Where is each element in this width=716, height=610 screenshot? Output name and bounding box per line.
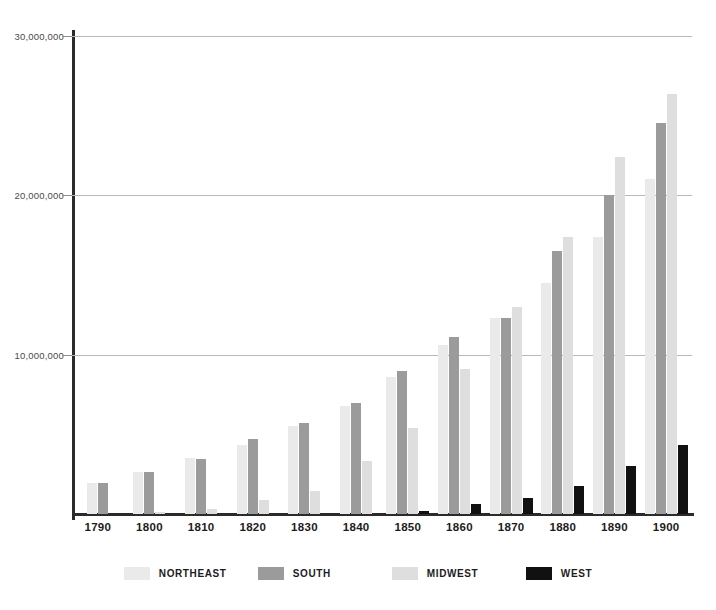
bar-northeast-1790	[87, 483, 97, 514]
bar-south-1880	[552, 251, 562, 514]
legend-swatch-south-icon	[258, 567, 284, 580]
bar-south-1840	[351, 403, 361, 514]
bar-northeast-1820	[237, 445, 247, 514]
bar-west-1890	[626, 466, 636, 514]
legend-label-northeast: NORTHEAST	[159, 568, 227, 579]
legend-item-west[interactable]: WEST	[526, 567, 592, 580]
bar-northeast-1840	[340, 406, 350, 514]
bar-south-1870	[501, 318, 511, 514]
bar-south-1890	[604, 195, 614, 514]
bar-northeast-1850	[386, 377, 396, 514]
bar-south-1800	[144, 472, 154, 514]
bar-midwest-1800	[155, 512, 165, 515]
bar-group-1790	[72, 36, 124, 514]
bar-south-1850	[397, 371, 407, 514]
bar-northeast-1830	[288, 426, 298, 514]
bar-midwest-1890	[615, 157, 625, 514]
bar-south-1820	[248, 439, 258, 514]
x-tick-label-1850: 1850	[394, 521, 421, 533]
y-tick-label-20m: 20,000,000	[14, 190, 64, 201]
x-axis-labels: 1790180018101820183018401850186018701880…	[72, 521, 692, 543]
bar-midwest-1850	[408, 428, 418, 514]
bar-northeast-1890	[593, 237, 603, 514]
bar-group-1880	[537, 36, 589, 514]
chart-legend: NORTHEASTSOUTHMIDWESTWEST	[0, 558, 716, 588]
x-tick-label-1860: 1860	[446, 521, 473, 533]
bar-midwest-1860	[460, 369, 470, 514]
bar-south-1790	[98, 483, 108, 514]
bar-south-1900	[656, 123, 666, 514]
x-tick-label-1870: 1870	[498, 521, 525, 533]
legend-label-midwest: MIDWEST	[427, 568, 478, 579]
x-tick-label-1890: 1890	[601, 521, 628, 533]
legend-swatch-northeast-icon	[124, 567, 150, 580]
x-tick-label-1820: 1820	[239, 521, 266, 533]
bar-group-1810	[175, 36, 227, 514]
bar-south-1830	[299, 423, 309, 514]
x-tick-label-1810: 1810	[188, 521, 215, 533]
bar-midwest-1900	[667, 94, 677, 514]
bar-west-1880	[574, 486, 584, 514]
bar-south-1860	[449, 337, 459, 514]
bar-midwest-1880	[563, 237, 573, 514]
bar-group-1850	[382, 36, 434, 514]
x-tick-label-1830: 1830	[291, 521, 318, 533]
bar-northeast-1880	[541, 283, 551, 514]
bar-west-1850	[419, 511, 429, 514]
bar-group-1830	[279, 36, 331, 514]
bar-group-1870	[485, 36, 537, 514]
y-tick-label-30m: 30,000,000	[14, 31, 64, 42]
y-axis-labels: 30,000,000 20,000,000 10,000,000	[0, 36, 64, 514]
population-bar-chart: 30,000,000 20,000,000 10,000,000 1790180…	[0, 0, 716, 610]
y-tick-label-10m: 10,000,000	[14, 349, 64, 360]
legend-label-west: WEST	[561, 568, 592, 579]
bar-group-1890	[589, 36, 641, 514]
bar-northeast-1810	[185, 458, 195, 514]
bar-south-1810	[196, 459, 206, 514]
bar-group-1860	[434, 36, 486, 514]
bar-northeast-1860	[438, 345, 448, 514]
legend-swatch-west-icon	[526, 567, 552, 580]
bar-west-1860	[471, 504, 481, 514]
plot-area	[72, 36, 692, 514]
legend-item-northeast[interactable]: NORTHEAST	[124, 567, 258, 580]
bar-midwest-1870	[512, 307, 522, 514]
x-tick-label-1900: 1900	[653, 521, 680, 533]
bar-midwest-1840	[362, 461, 372, 514]
legend-label-south: SOUTH	[293, 568, 331, 579]
bar-group-1820	[227, 36, 279, 514]
bars-layer	[72, 36, 692, 514]
x-tick-label-1790: 1790	[84, 521, 111, 533]
bar-west-1870	[523, 498, 533, 514]
bar-northeast-1800	[133, 472, 143, 514]
bar-midwest-1820	[259, 500, 269, 514]
legend-item-midwest[interactable]: MIDWEST	[392, 567, 526, 580]
x-tick-label-1880: 1880	[549, 521, 576, 533]
x-tick-label-1840: 1840	[343, 521, 370, 533]
bar-group-1800	[124, 36, 176, 514]
bar-midwest-1810	[207, 509, 217, 514]
bar-northeast-1870	[490, 318, 500, 514]
bar-midwest-1830	[310, 491, 320, 514]
bar-group-1900	[640, 36, 692, 514]
x-tick-label-1800: 1800	[136, 521, 163, 533]
bar-group-1840	[330, 36, 382, 514]
legend-swatch-midwest-icon	[392, 567, 418, 580]
bar-northeast-1900	[645, 179, 655, 514]
bar-west-1900	[678, 445, 688, 514]
legend-item-south[interactable]: SOUTH	[258, 567, 392, 580]
